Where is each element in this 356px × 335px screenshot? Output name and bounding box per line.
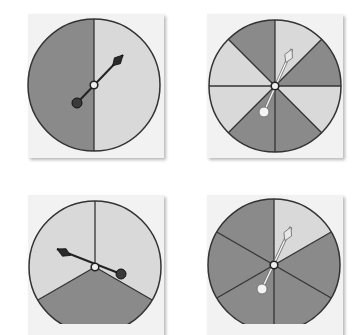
spinner-hub	[270, 261, 278, 269]
